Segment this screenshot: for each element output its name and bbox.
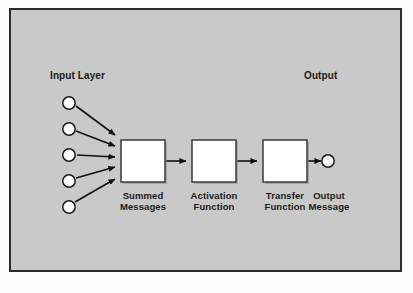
output-node-group: [322, 155, 334, 167]
stage-box-group: [121, 140, 309, 184]
output-message-caption: Output Message: [296, 190, 362, 212]
activation-function-box: [192, 140, 236, 182]
diagram-graphics: [11, 10, 402, 272]
input-edges: [75, 106, 115, 202]
input-node-group: [63, 97, 75, 213]
figure-canvas: Input Layer Output Summed Messages Activ…: [0, 0, 413, 293]
input-layer-label: Input Layer: [50, 70, 105, 81]
input-node-3: [63, 149, 75, 161]
diagram-panel: Input Layer Output Summed Messages Activ…: [9, 8, 402, 272]
output-node: [322, 155, 334, 167]
transfer-function-box: [263, 140, 307, 182]
edge-input-3: [77, 155, 115, 157]
summed-messages-caption: Summed Messages: [108, 190, 178, 212]
summed-messages-box: [121, 140, 165, 182]
input-node-2: [63, 123, 75, 135]
output-label: Output: [304, 70, 337, 81]
input-node-1: [63, 97, 75, 109]
edge-input-4: [76, 167, 115, 178]
activation-function-caption: Activation Function: [179, 190, 249, 212]
input-node-4: [63, 175, 75, 187]
input-node-5: [63, 201, 75, 213]
edge-input-1: [76, 106, 115, 135]
edge-input-2: [76, 131, 115, 146]
